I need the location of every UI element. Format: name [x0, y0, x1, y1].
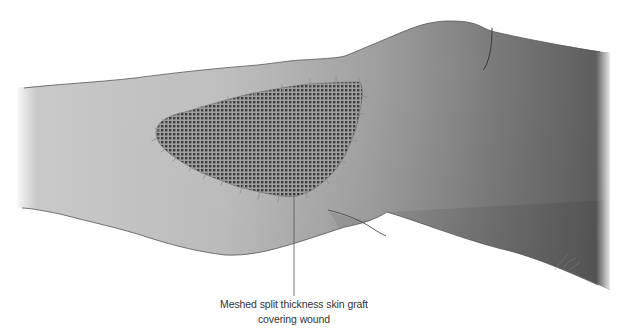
left-edge-fade — [14, 60, 36, 230]
graft-label-line2: covering wound — [144, 312, 444, 327]
graft-label-line1: Meshed split thickness skin graft — [144, 297, 444, 312]
graft-label: Meshed split thickness skin graft coveri… — [144, 297, 444, 327]
limb-illustration — [0, 0, 621, 335]
right-edge-fade — [596, 30, 612, 310]
